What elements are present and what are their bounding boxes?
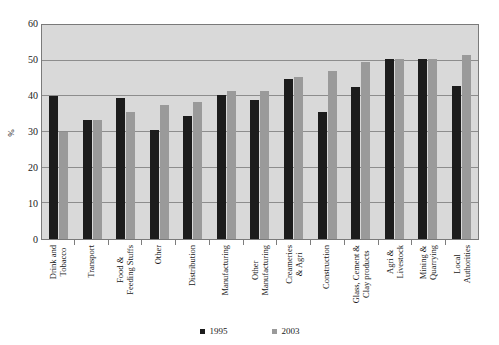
x-axis-label-line: Glass, Cement &: [351, 245, 361, 303]
x-axis-label-line: Local: [452, 254, 462, 273]
x-axis-category-labels: Drink andTobaccoTransportFood &Feeding S…: [41, 245, 479, 323]
bar-1995: [351, 87, 360, 239]
bar-group: [377, 25, 411, 239]
y-axis-tick-label: 60: [4, 19, 38, 29]
bar-1995: [83, 120, 92, 239]
x-axis-label-cell: Manufacturing: [209, 245, 243, 323]
bar-group: [444, 25, 478, 239]
bar-group: [176, 25, 210, 239]
bar-2003: [126, 112, 135, 239]
bar-2003: [462, 55, 471, 239]
x-axis-label-cell: Construction: [311, 245, 345, 323]
x-axis-label-cell: Creameries& Agri: [277, 245, 311, 323]
x-axis-label: Glass, Cement &Clay products: [352, 245, 371, 303]
bar-1995: [183, 116, 192, 239]
legend-label: 2003: [282, 326, 300, 336]
bar-1995: [385, 59, 394, 239]
bar-group: [344, 25, 378, 239]
bar-2003: [361, 62, 370, 239]
cropped-top-text: [0, 0, 499, 7]
x-axis-label-cell: Agri &Livestock: [378, 245, 412, 323]
bar-group: [411, 25, 445, 239]
x-axis-label: Construction: [323, 245, 333, 289]
y-axis-tick-label: 40: [4, 91, 38, 101]
y-axis-tick-label: 50: [4, 55, 38, 65]
x-axis-label: Transport: [87, 245, 97, 278]
bar-2003: [59, 132, 68, 239]
bar-2003: [160, 105, 169, 239]
bar-group: [143, 25, 177, 239]
bar-1995: [284, 79, 293, 240]
bar-1995: [452, 86, 461, 239]
x-axis-label: Food &Feeding Stuffs: [116, 245, 135, 295]
x-axis-label-line: Construction: [322, 245, 332, 289]
y-axis-tick-label: 0: [4, 235, 38, 245]
x-axis-label-line: Feeding Stuffs: [125, 245, 135, 295]
bar-chart: % 0102030405060 Drink andTobaccoTranspor…: [0, 0, 499, 345]
x-axis-label-cell: Mining &Quarrying: [412, 245, 446, 323]
x-axis-label-line: Clay products: [361, 245, 371, 303]
x-axis-label: OtherManufacturing: [250, 245, 269, 296]
bar-1995: [250, 100, 259, 239]
y-axis-tick-label: 30: [4, 127, 38, 137]
x-axis-label-line: Tobacco: [58, 245, 68, 279]
x-axis-label-cell: Transport: [75, 245, 109, 323]
y-axis-tick-label: 20: [4, 163, 38, 173]
y-axis-tick-label: 10: [4, 199, 38, 209]
bar-1995: [49, 96, 58, 239]
bar-2003: [294, 77, 303, 239]
x-axis-label: Distribution: [188, 245, 198, 286]
x-axis-label-line: Livestock: [395, 245, 405, 279]
bar-series-container: [42, 25, 478, 239]
legend-entry: 2003: [272, 326, 300, 336]
bar-2003: [428, 59, 437, 239]
chart-legend: 19952003: [0, 326, 499, 336]
bar-group: [109, 25, 143, 239]
x-axis-label-line: Drink and: [47, 245, 57, 279]
bar-group: [243, 25, 277, 239]
x-axis-label-line: Agri &: [384, 250, 394, 274]
bar-2003: [260, 91, 269, 239]
bar-group: [210, 25, 244, 239]
plot-area: [41, 24, 479, 240]
bar-group: [76, 25, 110, 239]
x-axis-label-line: Transport: [86, 245, 96, 278]
x-axis-label: Agri &Livestock: [385, 245, 404, 279]
legend-entry: 1995: [200, 326, 228, 336]
x-axis-label: Manufacturing: [222, 245, 232, 296]
x-axis-label-cell: Other: [142, 245, 176, 323]
x-axis-label-cell: OtherManufacturing: [243, 245, 277, 323]
bar-1995: [318, 112, 327, 239]
x-axis-label: Mining &Quarrying: [419, 245, 438, 280]
y-axis-tick-labels: 0102030405060: [0, 0, 38, 345]
x-axis-label-cell: Distribution: [176, 245, 210, 323]
x-axis-label-line: Creameries: [283, 245, 293, 284]
bar-group: [310, 25, 344, 239]
bar-2003: [227, 91, 236, 239]
x-axis-label-line: Distribution: [187, 245, 197, 286]
x-axis-label-line: Other: [249, 261, 259, 280]
bar-1995: [116, 98, 125, 239]
x-axis-label-cell: Glass, Cement &Clay products: [344, 245, 378, 323]
bar-2003: [328, 71, 337, 239]
bar-1995: [418, 59, 427, 239]
x-axis-label-line: Manufacturing: [260, 245, 270, 296]
bar-1995: [217, 95, 226, 239]
x-axis-label-cell: Food &Feeding Stuffs: [108, 245, 142, 323]
square-marker-icon: [272, 329, 277, 334]
bar-2003: [395, 59, 404, 239]
x-axis-label-cell: Drink andTobacco: [41, 245, 75, 323]
bar-group: [277, 25, 311, 239]
x-axis-label-line: Food &: [115, 257, 125, 283]
x-axis-label-line: Manufacturing: [221, 245, 231, 296]
x-axis-label: Creameries& Agri: [284, 245, 303, 284]
bar-1995: [150, 130, 159, 239]
bar-group: [42, 25, 76, 239]
square-marker-icon: [200, 329, 205, 334]
x-axis-label-line: & Agri: [294, 245, 304, 284]
x-axis-label: Drink andTobacco: [48, 245, 67, 279]
legend-label: 1995: [210, 326, 228, 336]
x-axis-label-line: Quarrying: [428, 245, 438, 280]
x-axis-label-cell: LocalAuthorities: [445, 245, 479, 323]
x-axis-label: LocalAuthorities: [453, 245, 472, 283]
